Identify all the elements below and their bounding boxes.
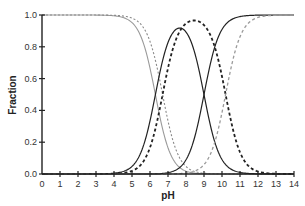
x-tick-label: 8	[183, 179, 188, 189]
x-tick-label: 5	[129, 179, 134, 189]
x-tick-label: 6	[147, 179, 152, 189]
x-tick-label: 12	[253, 179, 263, 189]
y-tick-label: 1.0	[24, 10, 37, 20]
series-curve-1	[42, 15, 294, 174]
series-curve-5	[42, 15, 294, 174]
x-axis-title: pH	[161, 190, 174, 201]
fraction-vs-ph-chart: 01234567891011121314 0.00.20.40.60.81.0 …	[0, 0, 305, 206]
x-tick-label: 9	[201, 179, 206, 189]
x-tick-label: 7	[165, 179, 170, 189]
x-tick-label: 4	[111, 179, 116, 189]
x-tick-label: 0	[39, 179, 44, 189]
y-tick-label: 0.0	[24, 169, 37, 179]
y-axis-title: Fraction	[7, 75, 18, 114]
y-tick-label: 0.4	[24, 105, 37, 115]
y-tick-label: 0.8	[24, 42, 37, 52]
plot-curves	[42, 15, 294, 174]
x-tick-label: 3	[93, 179, 98, 189]
x-tick-label: 10	[217, 179, 227, 189]
x-tick-label: 14	[289, 179, 299, 189]
series-curve-3	[42, 28, 294, 174]
x-tick-label: 2	[75, 179, 80, 189]
x-tick-label: 11	[235, 179, 244, 189]
x-tick-label: 1	[57, 179, 62, 189]
y-tick-label: 0.2	[24, 137, 37, 147]
series-curve-2	[42, 15, 294, 174]
x-tick-label: 13	[271, 179, 281, 189]
axes	[42, 15, 294, 174]
y-tick-label: 0.6	[24, 74, 37, 84]
series-curve-6	[42, 15, 294, 174]
